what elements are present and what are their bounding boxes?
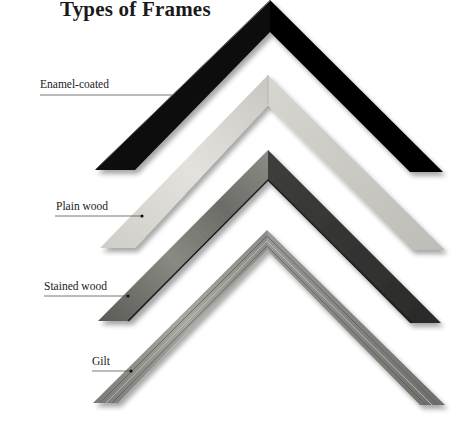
label-stained-wood: Stained wood xyxy=(44,280,107,292)
label-gilt: Gilt xyxy=(92,355,110,367)
gilt-frame xyxy=(93,230,445,405)
label-enamel-coated: Enamel-coated xyxy=(40,78,109,90)
label-plain-wood: Plain wood xyxy=(56,200,108,212)
frames-illustration xyxy=(0,0,466,429)
page-title: Types of Frames xyxy=(60,0,211,22)
